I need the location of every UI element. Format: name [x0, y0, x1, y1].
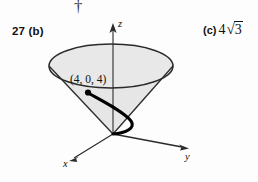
point-marker — [85, 89, 91, 95]
y-axis-arrowhead — [179, 145, 189, 151]
y-axis-line — [113, 134, 182, 147]
z-axis-label: z — [118, 18, 122, 29]
x-axis-line — [74, 134, 113, 158]
point-coordinate-label: (4, 0, 4) — [70, 73, 106, 85]
figure-page: † 27 (b) (c)4√3 (4, 0, 4 — [0, 0, 258, 182]
x-axis-label: x — [63, 158, 68, 169]
y-axis-label: y — [185, 151, 190, 162]
cone-diagram-svg — [0, 0, 258, 182]
